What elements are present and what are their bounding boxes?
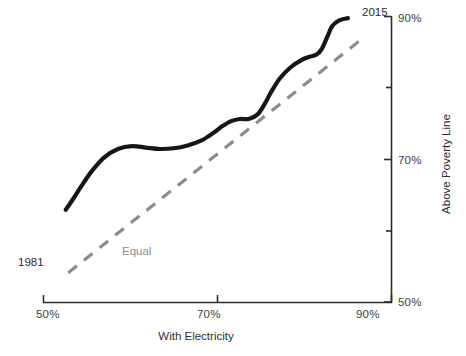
end-year-label: 2015: [362, 6, 388, 18]
chart-figure: 50% 70% 90% 50% 70% 90% With Electricity…: [0, 0, 466, 356]
y-tick-label-0: 50%: [398, 296, 422, 308]
x-axis-title: With Electricity: [0, 330, 392, 342]
chart-plot-area: [0, 0, 466, 356]
start-year-label: 1981: [18, 256, 44, 268]
x-tick-label-1: 70%: [197, 308, 221, 320]
y-axis: [384, 16, 392, 303]
equal-line-label: Equal: [122, 245, 151, 257]
y-tick-label-1: 70%: [398, 154, 422, 166]
x-tick-label-2: 90%: [356, 308, 380, 320]
equal-reference-line: [68, 41, 359, 273]
y-axis-title: Above Poverty Line: [440, 104, 452, 224]
x-axis: [43, 295, 392, 303]
trajectory-curve: [66, 18, 348, 210]
y-tick-label-2: 90%: [398, 12, 422, 24]
x-tick-label-0: 50%: [36, 308, 60, 320]
